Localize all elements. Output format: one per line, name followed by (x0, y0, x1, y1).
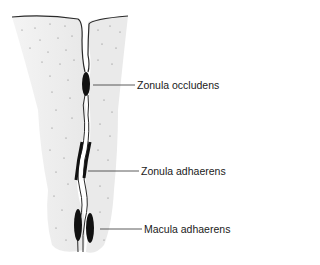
macula-adhaerens-left (74, 209, 82, 241)
macula-adhaerens-right (86, 213, 94, 243)
label-zonula-occludens: Zonula occludens (137, 79, 219, 91)
label-zonula-adhaerens: Zonula adhaerens (141, 165, 226, 177)
zonula-occludens-junction (82, 72, 90, 96)
label-macula-adhaerens: Macula adhaerens (144, 223, 230, 235)
